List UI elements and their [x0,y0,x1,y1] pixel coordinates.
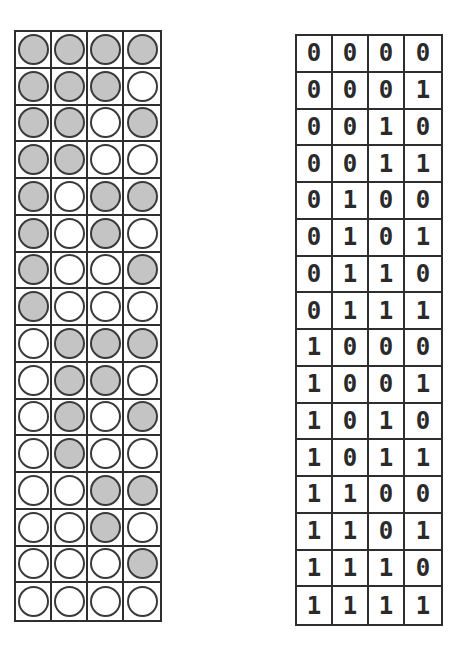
circle-cell [16,289,52,326]
digit-cell: 1 [333,183,369,220]
binary-digit: 1 [307,519,321,543]
binary-digit: 0 [379,41,393,65]
binary-digit: 1 [379,262,393,286]
binary-digit: 0 [379,372,393,396]
filled-circle-icon [90,328,121,359]
filled-circle-icon [127,548,158,579]
digit-cell: 1 [333,477,369,514]
circle-cell [16,436,52,473]
filled-circle-icon [127,328,158,359]
circle-cell [88,179,124,216]
binary-digit: 1 [343,188,357,212]
digit-cell: 0 [405,330,441,367]
circle-cell [16,179,52,216]
empty-circle-icon [127,365,158,396]
binary-digit: 0 [379,335,393,359]
empty-circle-icon [90,107,121,138]
circle-cell [88,32,124,69]
circle-cell [88,436,124,473]
digit-cell: 0 [297,220,333,257]
binary-digit: 0 [307,41,321,65]
circle-cell [88,326,124,363]
digit-cell: 1 [405,220,441,257]
digit-cell: 0 [333,330,369,367]
digit-cell: 0 [333,440,369,477]
circle-cell [88,363,124,400]
binary-digit: 1 [379,152,393,176]
binary-digit: 1 [343,225,357,249]
circle-cell [52,106,88,143]
filled-circle-icon [127,254,158,285]
binary-digit: 0 [379,225,393,249]
digit-cell: 0 [405,551,441,588]
binary-digit: 1 [379,299,393,323]
binary-digit: 1 [307,446,321,470]
circle-cell [16,142,52,179]
digit-cell: 0 [405,257,441,294]
binary-digit: 0 [307,115,321,139]
circle-cell [52,326,88,363]
empty-circle-icon [18,328,49,359]
binary-digit: 0 [307,78,321,102]
filled-circle-icon [54,401,85,432]
digit-cell: 0 [297,257,333,294]
digit-cell: 0 [333,404,369,441]
binary-digit: 1 [343,519,357,543]
binary-digit: 0 [379,482,393,506]
binary-digit: 0 [307,262,321,286]
digit-cell: 1 [369,551,405,588]
digit-cell: 0 [369,514,405,551]
empty-circle-icon [18,475,49,506]
empty-circle-icon [127,438,158,469]
filled-circle-icon [54,438,85,469]
binary-digit: 0 [307,152,321,176]
digit-cell: 0 [333,367,369,404]
binary-digit: 0 [416,482,430,506]
empty-circle-icon [54,181,85,212]
binary-digit: 0 [343,41,357,65]
empty-circle-icon [18,548,49,579]
circle-cell [124,32,160,69]
circle-cell [88,583,124,620]
circle-cell [52,363,88,400]
binary-digit: 0 [343,446,357,470]
circle-cell [88,106,124,143]
binary-digit: 1 [343,556,357,580]
circle-cell [88,473,124,510]
filled-circle-icon [127,107,158,138]
circle-cell [124,253,160,290]
circle-cell [124,363,160,400]
circle-cell [88,253,124,290]
circle-cell [16,400,52,437]
empty-circle-icon [54,218,85,249]
digit-cell: 1 [405,146,441,183]
digit-cell: 1 [405,73,441,110]
digit-cell: 1 [333,220,369,257]
binary-digit: 0 [416,262,430,286]
filled-circle-icon [90,34,121,65]
empty-circle-icon [90,586,121,617]
empty-circle-icon [18,401,49,432]
empty-circle-icon [127,71,158,102]
digit-cell: 1 [333,587,369,624]
empty-circle-icon [127,512,158,543]
digit-cell: 0 [297,36,333,73]
filled-circle-icon [54,328,85,359]
digit-cell: 0 [405,110,441,147]
digit-cell: 0 [369,330,405,367]
filled-circle-icon [54,365,85,396]
circle-cell [16,32,52,69]
binary-digit: 0 [343,152,357,176]
filled-circle-icon [18,144,49,175]
binary-digit: 1 [416,372,430,396]
digit-cell: 0 [405,477,441,514]
digit-cell: 1 [369,587,405,624]
binary-digit: 0 [343,115,357,139]
binary-digit: 0 [416,115,430,139]
circle-cell [88,142,124,179]
circle-cell [124,510,160,547]
binary-digit: 0 [379,519,393,543]
binary-digit: 0 [416,409,430,433]
binary-digit: 1 [416,152,430,176]
empty-circle-icon [54,512,85,543]
